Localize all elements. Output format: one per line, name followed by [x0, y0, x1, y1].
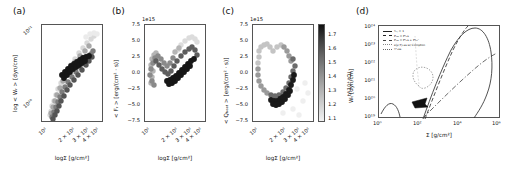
panel-a-ytick-0: 10²¹ [9, 25, 34, 47]
panel-b-scatter [147, 34, 199, 87]
panel-c-scatter [255, 41, 310, 117]
figure-canvas: (a) log < Wᵣ > [dyn/cm] 10²¹ 10²⁰ [0, 0, 507, 174]
panel-c-label: (c) [222, 6, 234, 16]
panel-a-ylabel: log < Wᵣ > [dyn/cm] [12, 55, 18, 112]
panel-d-xtick-0: 10⁰ [373, 120, 382, 126]
legend-key-dotted-icon [383, 49, 392, 50]
panel-d-ytick-2: 10²² [353, 59, 375, 65]
panel-c-offset: 1e15 [250, 16, 263, 22]
panel-c-ytick-5: −5.0 [225, 101, 248, 107]
legend-key-solid-icon [383, 31, 392, 32]
colorbar-tick-3: 1.4 [328, 73, 336, 79]
curve-prad-pgas-pgrav [423, 53, 497, 118]
panel-a-label: (a) [13, 6, 26, 16]
marker-kappa-compton [412, 98, 428, 108]
panel-a-xtick-0: 10² [27, 126, 48, 145]
legend-key-dashdot-icon [383, 40, 392, 41]
panel-d-ytick-0: 10²⁴ [353, 23, 375, 29]
panel-b-plot [145, 25, 207, 123]
panel-d-xlabel: Σ [g/cm²] [378, 132, 500, 138]
panel-d-xtick-2: 10⁴ [453, 120, 462, 126]
panel-a-axes [41, 24, 103, 122]
panel-a: (a) log < Wᵣ > [dyn/cm] 10²¹ 10²⁰ [0, 0, 120, 174]
panel-b-ytick-6: −7.5 [117, 117, 140, 123]
panel-a-plot [42, 25, 104, 123]
panel-d-ytick-3: 10²¹ [353, 77, 375, 83]
panel-c-xtick-0: 10² [238, 126, 259, 145]
panel-d: (d) Wₜ [dyn/cm] 10²⁴ 10²³ 10²² 10²¹ 10²⁰… [350, 0, 507, 174]
panel-c-ytick-2: 2.5 [228, 53, 248, 59]
panel-c-xlabel: logΣ [g/cm²] [252, 155, 314, 161]
panel-b-label: (b) [112, 6, 125, 16]
panel-c-ytick-3: 0.0 [228, 69, 248, 75]
panel-c-ytick-0: 7.5 [228, 21, 248, 27]
panel-d-ytick-5: 10¹⁹ [353, 113, 375, 119]
panel-b-ytick-4: −2.5 [117, 85, 140, 91]
panel-b-ytick-2: 2.5 [120, 53, 140, 59]
panel-c-ytick-1: 5.0 [228, 37, 248, 43]
panel-d-ytick-1: 10²³ [353, 41, 375, 47]
colorbar-tick-6: 1.1 [328, 115, 336, 121]
legend-key-marker-icon [383, 44, 392, 45]
panel-c-axes [252, 24, 314, 122]
legend-key-dash-icon [383, 35, 392, 36]
legend-label-4: τᴿₒꜱꜱ [394, 47, 401, 52]
panel-b: (b) < Fᵣ > [erg/(cm² · s)] 1e15 7.5 5.0 … [108, 0, 226, 174]
colorbar-tick-1: 1.6 [328, 45, 336, 51]
panel-d-ytick-4: 10²⁰ [353, 95, 375, 101]
panel-d-xtick-3: 10⁶ [492, 120, 501, 126]
panel-b-axes [144, 24, 206, 122]
colorbar-tick-4: 1.3 [328, 87, 336, 93]
panel-b-ytick-3: 0.0 [120, 69, 140, 75]
panel-b-xlabel: logΣ [g/cm²] [144, 155, 206, 161]
curve-tau-ross [413, 67, 433, 88]
panel-c-plot [253, 25, 315, 123]
panel-b-ytick-0: 7.5 [120, 21, 140, 27]
panel-d-legend: τₑ꜀ = 1 Pᵣₐₔ = Pᵍₐꜱ Pᵣₐₔ = Pᵍₐꜱ + Pᵍᵣₐᵛ … [383, 29, 463, 52]
legend-item-4: τᴿₒꜱꜱ [383, 47, 463, 52]
panel-b-ytick-5: −5.0 [117, 101, 140, 107]
panel-c-ytick-4: −2.5 [225, 85, 248, 91]
panel-a-scatter [47, 30, 99, 121]
panel-c: (c) < Qₕₑₐₜ > [erg/(cm² · s)] 1e15 7.5 5… [218, 0, 353, 174]
panel-b-xtick-0: 10² [130, 126, 151, 145]
colorbar-tick-2: 1.5 [328, 59, 336, 65]
colorbar-tick-0: 1.7 [328, 31, 336, 37]
panel-d-label: (d) [356, 6, 369, 16]
panel-c-ytick-6: −7.5 [225, 117, 248, 123]
colorbar-gradient [318, 24, 325, 122]
panel-b-offset: 1e15 [142, 16, 155, 22]
panel-a-xlabel: logΣ [g/cm²] [41, 155, 103, 161]
colorbar-tick-5: 1.2 [328, 101, 336, 107]
panel-b-ytick-1: 5.0 [120, 37, 140, 43]
panel-d-xtick-1: 10² [413, 120, 422, 126]
